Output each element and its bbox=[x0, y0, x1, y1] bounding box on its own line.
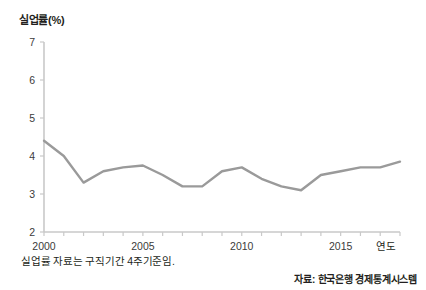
y-axis-tick-label: 2 bbox=[29, 226, 35, 238]
y-axis-tick-label: 7 bbox=[29, 36, 35, 48]
y-axis-tick-label: 3 bbox=[29, 188, 35, 200]
unemployment-rate-figure: 실업률(%) 2345672000200520102015연도 실업률 자료는 … bbox=[0, 0, 426, 290]
figure-note-caption: 실업률 자료는 구직기간 4주기준임. bbox=[21, 253, 175, 268]
x-axis-tick-label: 2000 bbox=[32, 240, 56, 252]
x-axis-title: 연도 bbox=[376, 240, 396, 252]
y-axis-tick-label: 4 bbox=[29, 150, 35, 162]
x-axis-tick-label: 2015 bbox=[329, 240, 353, 252]
line-chart-plot: 2345672000200520102015연도 bbox=[0, 0, 426, 290]
data-series-line-unemployment-rate bbox=[44, 141, 400, 190]
y-axis-tick-label: 6 bbox=[29, 74, 35, 86]
x-axis-tick-label: 2005 bbox=[131, 240, 155, 252]
figure-source-note: 자료: 한국은행 경제통계시스템 bbox=[294, 271, 417, 286]
x-axis-tick-label: 2010 bbox=[230, 240, 254, 252]
y-axis-tick-label: 5 bbox=[29, 112, 35, 124]
